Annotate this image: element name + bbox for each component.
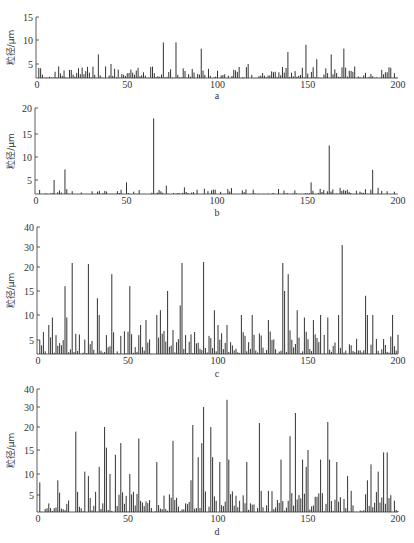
y-tick-label: 5 — [29, 490, 34, 501]
chart-d-svg: 51015203040050100150200粒径/μmd — [0, 0, 414, 543]
y-tick-label: 10 — [24, 469, 34, 480]
x-tick-label: 100 — [211, 513, 226, 524]
bars-d — [40, 400, 398, 512]
y-axis-label: 粒径/μm — [5, 433, 16, 469]
y-tick-label: 15 — [24, 445, 34, 456]
x-tick-label: 50 — [123, 513, 133, 524]
y-tick-label: 20 — [24, 422, 34, 433]
y-tick-label: 40 — [24, 384, 34, 395]
chart-panel-d: 51015203040050100150200粒径/μmd — [0, 0, 414, 543]
y-tick-label: 30 — [24, 402, 34, 413]
x-tick-label: 0 — [36, 513, 41, 524]
panel-caption-d: d — [215, 526, 220, 537]
x-tick-label: 150 — [301, 513, 316, 524]
x-tick-label: 200 — [391, 513, 406, 524]
